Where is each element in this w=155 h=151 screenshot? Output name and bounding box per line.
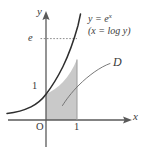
- origin-label: O: [36, 122, 44, 133]
- x-axis-label: x: [133, 111, 138, 122]
- region-d-label: D: [113, 56, 122, 68]
- math-figure: y x e 1 O 1 y = ex (x = log y) D: [0, 0, 155, 151]
- x-tick-label-1: 1: [74, 122, 79, 133]
- y-axis-label: y: [37, 6, 42, 17]
- curve-equation-exponent: x: [109, 12, 112, 19]
- curve-equation-base: y = e: [88, 13, 109, 24]
- inverse-equation-label: (x = log y): [88, 26, 131, 36]
- y-tick-label-e: e: [28, 33, 33, 44]
- curve-equation-label: y = ex: [88, 13, 112, 24]
- y-tick-label-1: 1: [32, 81, 37, 92]
